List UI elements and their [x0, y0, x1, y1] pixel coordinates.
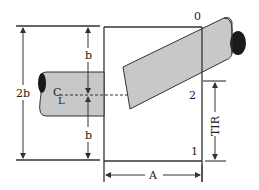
dimension-b-upper-label: b [85, 49, 92, 62]
dimension-a-label: A [148, 169, 158, 182]
point-0-label: 0 [194, 10, 201, 23]
dimension-b-lower-label: b [85, 129, 92, 142]
tir-label: TIR [209, 115, 222, 136]
tilted-shaft [123, 18, 246, 110]
left-shaft-end [38, 73, 46, 93]
centerline-label-l: L [58, 95, 65, 106]
misalignment-diagram: C L 2b b b 0 2 1 TIR A [0, 0, 259, 190]
dimension-2b-label: 2b [16, 87, 30, 100]
point-2-label: 2 [189, 89, 196, 102]
left-shaft [40, 72, 104, 116]
point-1-label: 1 [191, 145, 198, 158]
